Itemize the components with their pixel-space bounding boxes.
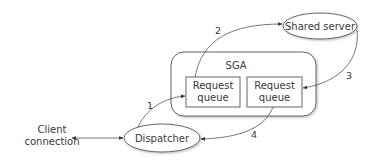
client-connection-line1: Client [38, 124, 67, 135]
dispatcher-node: Dispatcher [124, 124, 200, 152]
request-queue-right-line1: Request [254, 80, 295, 91]
dispatcher-label: Dispatcher [135, 133, 190, 144]
request-queue-right-line2: queue [259, 92, 290, 103]
sga-label: SGA [226, 60, 247, 71]
diagram-canvas: SGA Request queue Request queue Shared s… [0, 0, 387, 164]
edge-2-label: 2 [215, 25, 221, 36]
client-connection-line2: connection [24, 136, 79, 147]
edge-1-label: 1 [147, 100, 153, 111]
shared-server-label: Shared server [285, 21, 356, 32]
edge-3-label: 3 [346, 70, 352, 81]
client-connection-node: Client connection [24, 124, 79, 147]
request-queue-left: Request queue [186, 77, 240, 107]
request-queue-right: Request queue [247, 77, 302, 107]
edge-4-label: 4 [251, 129, 257, 140]
shared-server-node: Shared server [283, 13, 357, 39]
request-queue-left-line2: queue [197, 92, 228, 103]
request-queue-left-line1: Request [193, 80, 234, 91]
